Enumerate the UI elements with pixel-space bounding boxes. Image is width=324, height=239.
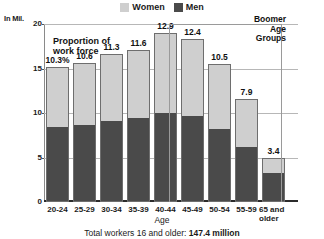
boomer-annotation-line3: Groups (228, 34, 286, 44)
x-tick-40-44: 40-44 (151, 205, 180, 214)
bar-segment-women-25-29 (74, 64, 95, 127)
bar-stack-20-24[interactable] (46, 67, 69, 202)
x-tick-30-34: 30-34 (97, 205, 126, 214)
bar-value-40-44: 12.9 (157, 22, 174, 31)
x-tick-55-59: 55-59 (232, 205, 261, 214)
bar-segment-women-30-34 (101, 55, 122, 123)
bar-value-65-and-older: 3.4 (268, 147, 280, 156)
x-tick-35-39: 35-39 (124, 205, 153, 214)
footnote-prefix: Total workers 16 and older: (84, 228, 186, 238)
x-tick-45-49: 45-49 (178, 205, 207, 214)
proportion-annotation: Proportion of work force (53, 36, 141, 56)
bar-segment-men-30-34 (101, 121, 122, 201)
x-axis-title: Age (0, 216, 324, 225)
bar-group-55-59[interactable]: 7.9 (235, 24, 258, 202)
bar-stack-25-29[interactable] (73, 63, 96, 202)
bar-stack-55-59[interactable] (235, 99, 258, 202)
y-tick-20: 20 (33, 20, 42, 28)
women-swatch (120, 3, 129, 12)
bar-segment-men-25-29 (74, 125, 95, 201)
legend-item-women: Women (120, 3, 164, 12)
bar-segment-women-20-24 (47, 68, 68, 129)
bar-group-65-and-older[interactable]: 3.4 (262, 24, 285, 202)
bar-segment-women-35-39 (128, 51, 149, 120)
legend-label-women: Women (132, 3, 164, 12)
y-tick-0: 0 (38, 198, 42, 206)
x-tick-25-29: 25-29 (70, 205, 99, 214)
bar-segment-women-45-49 (182, 40, 203, 118)
y-tick-15: 15 (33, 65, 42, 73)
footnote-value: 147.4 million (189, 228, 240, 238)
bar-stack-50-54[interactable] (208, 64, 231, 202)
bar-segment-men-50-54 (209, 129, 230, 201)
bar-value-55-59: 7.9 (241, 88, 253, 97)
y-axis-ticks: 20 15 10 5 0 (22, 24, 42, 202)
bar-segment-men-65-and-older (263, 173, 284, 202)
proportion-annotation-line1: Proportion of (53, 36, 141, 46)
bar-group-50-54[interactable]: 10.5 (208, 24, 231, 202)
bar-value-45-49: 12.4 (184, 28, 201, 37)
chart-container: Women Men In Mil. 20 15 10 5 0 10.3% (0, 0, 324, 239)
bar-stack-65-and-older[interactable] (262, 158, 285, 203)
bar-value-20-24: 10.3% (45, 56, 69, 65)
legend-label-men: Men (186, 3, 204, 12)
bar-stack-35-39[interactable] (127, 50, 150, 202)
x-tick-50-54: 50-54 (205, 205, 234, 214)
y-tick-10: 10 (33, 109, 42, 117)
bar-value-50-54: 10.5 (211, 53, 228, 62)
men-swatch (174, 3, 183, 12)
proportion-annotation-line2: work force (53, 46, 141, 56)
bar-stack-45-49[interactable] (181, 39, 204, 202)
bar-group-45-49[interactable]: 12.4 (181, 24, 204, 202)
chart-footnote: Total workers 16 and older: 147.4 millio… (0, 228, 324, 238)
bar-segment-women-55-59 (236, 100, 257, 149)
bar-group-40-44[interactable]: 12.9 (154, 24, 177, 202)
bar-segment-men-35-39 (128, 118, 149, 201)
bar-segment-men-55-59 (236, 147, 257, 201)
boomer-annotation: Boomer Age Groups (228, 15, 286, 44)
bar-segment-women-50-54 (209, 65, 230, 131)
bar-stack-30-34[interactable] (100, 54, 123, 202)
y-axis-unit-label: In Mil. (4, 15, 24, 23)
bar-segment-women-40-44 (155, 34, 176, 115)
chart-legend: Women Men (0, 1, 324, 13)
bar-segment-men-20-24 (47, 127, 68, 201)
bar-segment-men-45-49 (182, 116, 203, 201)
bar-segment-men-40-44 (155, 113, 176, 201)
legend-item-men: Men (174, 3, 204, 12)
x-tick-20-24: 20-24 (43, 205, 72, 214)
x-tick-65-and-older-line1: 65 and (259, 205, 284, 214)
bar-stack-40-44[interactable] (154, 33, 177, 202)
